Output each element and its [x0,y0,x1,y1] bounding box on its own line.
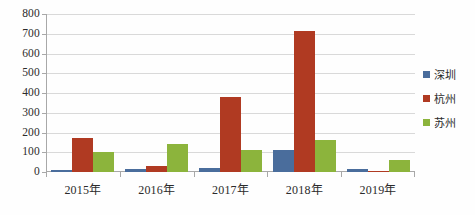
x-axis-tick [267,172,341,177]
bar-groups [46,14,415,172]
y-axis-tick-label: 400 [4,87,40,99]
x-axis-tick [194,172,268,177]
bar [389,160,410,172]
legend: 深圳杭州苏州 [423,66,456,130]
x-axis-tick-label: 2015年 [46,180,120,198]
bar [241,150,262,172]
x-axis-tick-label: 2019年 [341,180,415,198]
x-axis-tick [341,172,415,177]
legend-swatch-icon [423,95,430,102]
bar-group [341,14,415,172]
bar [273,150,294,172]
legend-label: 苏州 [434,114,456,130]
bar-group [46,14,120,172]
bar [294,31,315,172]
y-axis-tick-label: 100 [4,146,40,158]
bar [167,144,188,172]
x-axis-tick [46,172,120,177]
y-axis-tick-label: 500 [4,67,40,79]
legend-label: 深圳 [434,66,456,82]
y-axis-tick-label: 300 [4,107,40,119]
legend-item[interactable]: 苏州 [423,114,456,130]
x-axis-tick-label: 2016年 [120,180,194,198]
y-axis-tick-label: 0 [4,166,40,178]
y-axis-tick-label: 600 [4,48,40,60]
x-axis-tick-label: 2018年 [267,180,341,198]
legend-item[interactable]: 杭州 [423,90,456,106]
bar-group [267,14,341,172]
legend-swatch-icon [423,119,430,126]
x-axis-tick [120,172,194,177]
bar [93,152,114,172]
bar [220,97,241,172]
legend-item[interactable]: 深圳 [423,66,456,82]
x-axis-labels: 2015年2016年2017年2018年2019年 [46,180,415,198]
legend-label: 杭州 [434,90,456,106]
x-axis-ticks [46,172,415,177]
legend-swatch-icon [423,71,430,78]
x-axis-tick-label: 2017年 [194,180,268,198]
bar-group [120,14,194,172]
bar-group [194,14,268,172]
bar-chart: 0100200300400500600700800 2015年2016年2017… [0,0,475,215]
y-axis-tick-label: 800 [4,8,40,20]
bar [315,140,336,172]
y-axis-tick-label: 200 [4,127,40,139]
y-axis-tick-label: 700 [4,28,40,40]
bar [72,138,93,172]
